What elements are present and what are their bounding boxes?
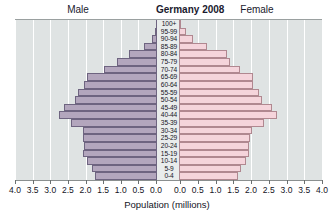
x-axis-tick <box>68 180 69 184</box>
female-bar <box>180 96 262 104</box>
x-axis-tick <box>103 180 104 184</box>
x-axis-tick <box>304 180 305 184</box>
age-group-label: 45-49 <box>157 104 181 112</box>
x-axis-tick <box>216 180 217 184</box>
age-group-label: 95-99 <box>157 28 181 36</box>
female-bar <box>180 35 193 43</box>
female-bar <box>180 73 253 81</box>
x-axis-tick <box>138 180 139 184</box>
x-axis-tick <box>121 180 122 184</box>
age-group-label: 90-94 <box>157 35 181 43</box>
x-axis-tick-label: 4.0 <box>309 185 334 196</box>
age-group-axis: 100+95-9990-9485-8980-8475-7970-7465-696… <box>156 20 180 180</box>
age-group-label: 0-4 <box>157 172 181 180</box>
x-axis-tick <box>15 180 16 184</box>
x-axis-tick <box>251 180 252 184</box>
female-bar <box>180 58 230 66</box>
x-axis-tick <box>156 180 157 184</box>
female-bar <box>180 66 240 74</box>
female-bar <box>180 150 249 158</box>
female-bar <box>180 127 252 135</box>
age-group-label: 40-44 <box>157 111 181 119</box>
x-axis-title: Population (millions) <box>0 199 334 210</box>
population-pyramid-chart: Male Germany 2008 Female 100+95-9990-948… <box>0 0 334 217</box>
female-bar <box>180 81 253 89</box>
x-axis-tick <box>50 180 51 184</box>
female-bar <box>180 119 264 127</box>
age-group-label: 50-54 <box>157 96 181 104</box>
age-group-label: 60-64 <box>157 81 181 89</box>
age-group-label: 100+ <box>157 20 181 28</box>
chart-title: Germany 2008 <box>156 3 180 16</box>
age-group-label: 55-59 <box>157 89 181 97</box>
x-axis-tick <box>287 180 288 184</box>
x-axis-tick <box>33 180 34 184</box>
age-group-label: 35-39 <box>157 119 181 127</box>
age-group-label: 65-69 <box>157 73 181 81</box>
female-legend-label: Female <box>180 3 334 16</box>
female-bar <box>180 89 259 97</box>
female-bar <box>180 50 227 58</box>
female-bar <box>180 157 246 165</box>
age-group-label: 15-19 <box>157 150 181 158</box>
axis-bottom-line <box>15 180 322 181</box>
female-bar <box>180 104 272 112</box>
x-axis-tick <box>86 180 87 184</box>
age-group-label: 80-84 <box>157 50 181 58</box>
age-group-label: 75-79 <box>157 58 181 66</box>
x-axis-tick <box>180 180 181 184</box>
age-group-label: 30-34 <box>157 127 181 135</box>
x-axis-tick <box>269 180 270 184</box>
female-bar <box>180 142 249 150</box>
age-group-label: 85-89 <box>157 43 181 51</box>
x-axis-tick <box>322 180 323 184</box>
female-bar <box>180 165 241 173</box>
male-legend-label: Male <box>0 3 156 16</box>
x-axis-tick-label: 0.0 <box>143 185 169 196</box>
age-group-label: 70-74 <box>157 66 181 74</box>
age-group-label: 25-29 <box>157 134 181 142</box>
x-axis-tick <box>233 180 234 184</box>
female-bar <box>180 134 250 142</box>
female-bar <box>180 111 277 119</box>
age-group-label: 20-24 <box>157 142 181 150</box>
age-group-label: 10-14 <box>157 157 181 165</box>
age-group-label: 5-9 <box>157 165 181 173</box>
female-bar <box>180 43 207 51</box>
female-bar <box>180 172 238 180</box>
x-axis-tick <box>198 180 199 184</box>
